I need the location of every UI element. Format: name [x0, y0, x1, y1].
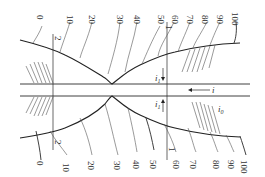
svg-text:0: 0 [35, 15, 45, 20]
svg-text:50: 50 [156, 15, 166, 25]
symbol-i1-bottom: i1 [155, 99, 161, 110]
svg-text:10: 10 [61, 163, 71, 173]
svg-text:90: 90 [215, 15, 225, 25]
svg-text:0: 0 [35, 161, 45, 166]
symbol-i-main: i [212, 85, 215, 95]
section-label-2-bottom: 2 [53, 140, 63, 145]
hatch-upper-left [26, 62, 53, 83]
svg-text:10: 10 [65, 15, 75, 25]
svg-text:30: 30 [115, 15, 125, 25]
hatch-lower-right [192, 102, 220, 134]
svg-text:60: 60 [171, 160, 181, 170]
svg-text:70: 70 [185, 15, 195, 25]
diagram-canvas: 0 10 20 30 40 50 60 70 80 90 100 0 10 20… [0, 0, 265, 177]
svg-text:40: 40 [131, 160, 141, 170]
svg-text:50: 50 [148, 160, 158, 170]
section-label-1-top: 1 [164, 25, 174, 30]
symbol-i0: i0 [218, 104, 224, 115]
section-label-2-top: 2 [53, 36, 63, 41]
svg-text:30: 30 [112, 161, 122, 171]
svg-text:90: 90 [226, 160, 236, 170]
svg-text:60: 60 [170, 15, 180, 25]
hatch-lower-left [26, 97, 53, 116]
svg-text:80: 80 [200, 15, 210, 25]
svg-text:100: 100 [239, 160, 249, 174]
svg-text:80: 80 [211, 160, 221, 170]
svg-text:40: 40 [132, 15, 142, 25]
svg-text:70: 70 [188, 160, 198, 170]
svg-text:20: 20 [86, 161, 96, 171]
section-label-1-bottom: 1 [167, 147, 177, 152]
svg-text:20: 20 [87, 15, 97, 25]
bottom-scale: 0 10 20 30 40 50 60 70 80 90 100 [35, 160, 249, 174]
symbol-i1-top: i1 [155, 73, 161, 84]
top-scale: 0 10 20 30 40 50 60 70 80 90 100 [35, 12, 240, 26]
leader-top-0 [33, 26, 42, 43]
svg-text:100: 100 [230, 12, 240, 26]
